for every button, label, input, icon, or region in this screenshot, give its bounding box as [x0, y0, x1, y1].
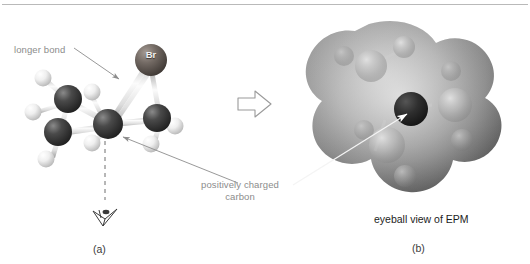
atom-hydrogen [38, 151, 55, 168]
atom-carbon [54, 85, 82, 113]
panel-label-b: (b) [412, 242, 425, 254]
epm-subsurface-hydrogen [441, 61, 461, 81]
annotation-line-2: carbon [225, 191, 255, 202]
atom-carbon-positively-charged [93, 109, 123, 139]
annotation-line-1: positively charged [201, 179, 279, 190]
epm-subsurface-hydrogen [451, 129, 473, 151]
epm-central-carbon [394, 92, 428, 126]
leader-line-charged-carbon-a [123, 137, 238, 183]
atom-hydrogen [143, 136, 160, 153]
block-arrow-right-icon [238, 91, 271, 117]
annotation-longer-bond: longer bond [14, 44, 65, 56]
atom-hydrogen [84, 84, 101, 101]
atom-carbon-right-ch2 [143, 104, 171, 132]
eye-icon [93, 209, 117, 226]
epm-subsurface-hydrogen [334, 46, 354, 66]
atom-hydrogen [84, 135, 101, 152]
figure-root: longer bond positively charged carbon Br… [0, 0, 530, 264]
epm-subsurface-carbon [438, 88, 472, 122]
annotation-positively-charged-carbon: positively charged carbon [190, 179, 290, 203]
epm-subsurface-carbon [355, 50, 387, 82]
atom-carbon [44, 118, 72, 146]
epm-subsurface-carbon [369, 127, 405, 163]
atom-bromine [135, 44, 167, 76]
epm-subsurface-hydrogen [393, 36, 415, 58]
atom-hydrogen [25, 104, 42, 121]
leader-line-longer-bond [74, 48, 119, 79]
panel-b-epm-surface [293, 21, 502, 192]
panel-label-a: (a) [93, 243, 106, 255]
atom-hydrogen [35, 70, 52, 87]
epm-subsurface-hydrogen [394, 165, 416, 187]
caption-eyeball-view-of-epm: eyeball view of EPM [374, 213, 469, 225]
